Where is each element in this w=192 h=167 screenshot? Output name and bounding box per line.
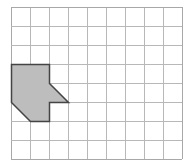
shaded-polygon: [12, 65, 69, 122]
grid-diagram: [0, 0, 192, 167]
